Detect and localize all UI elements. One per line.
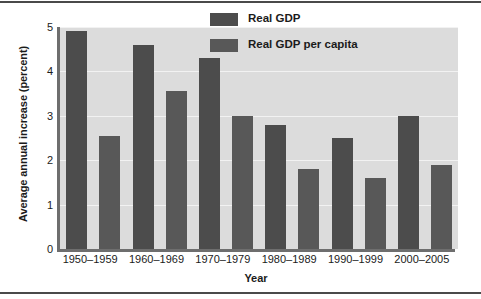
plot-area	[57, 27, 458, 249]
plot-inner	[60, 27, 458, 249]
y-tick-label: 1	[33, 199, 53, 210]
bar	[365, 178, 386, 249]
bar	[166, 91, 187, 250]
bar	[398, 116, 419, 249]
figure: Average annual increase (percent) 012345…	[0, 0, 481, 299]
x-tick-label: 1990–1999	[328, 253, 383, 265]
y-tick-label: 3	[33, 110, 53, 121]
top-rule	[0, 1, 481, 3]
y-axis-title: Average annual increase (percent)	[17, 18, 29, 250]
y-tick-label: 2	[33, 155, 53, 166]
x-axis-line	[57, 249, 455, 252]
y-tick-label: 4	[33, 66, 53, 77]
y-axis-tick-labels: 012345	[31, 0, 53, 299]
x-axis-tick-labels: 1950–19591960–19691970–19791980–19891990…	[57, 253, 455, 269]
y-tick-label: 0	[33, 244, 53, 255]
bar	[232, 116, 253, 249]
x-tick-label: 1970–1979	[195, 253, 250, 265]
bottom-rule	[0, 292, 481, 294]
x-tick-label: 1950–1959	[63, 253, 118, 265]
legend-swatch	[210, 13, 238, 26]
x-tick-label: 1980–1989	[262, 253, 317, 265]
bar	[199, 58, 220, 249]
bar	[431, 165, 452, 249]
bar	[66, 31, 87, 249]
x-axis-title: Year	[57, 272, 455, 284]
x-tick-label: 1960–1969	[129, 253, 184, 265]
bar	[265, 125, 286, 249]
x-tick-label: 2000–2005	[394, 253, 449, 265]
bar	[99, 136, 120, 249]
legend-swatch	[210, 39, 238, 52]
bar	[133, 45, 154, 249]
y-tick-label: 5	[33, 22, 53, 33]
legend-label: Real GDP per capita	[248, 38, 358, 50]
bar	[298, 169, 319, 249]
gridline	[60, 71, 458, 72]
gridline	[60, 27, 458, 28]
bar	[332, 138, 353, 249]
legend-label: Real GDP	[248, 12, 300, 24]
